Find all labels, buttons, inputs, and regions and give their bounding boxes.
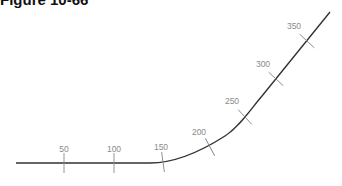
- station-label: 250: [225, 96, 239, 106]
- station-label: 50: [59, 144, 69, 154]
- alignment-diagram: 50100150200250300350: [0, 0, 342, 186]
- station-label: 150: [154, 142, 168, 152]
- station-label: 300: [256, 59, 270, 69]
- alignment-curve: [16, 12, 330, 163]
- station-label: 100: [107, 144, 121, 154]
- station-tick: [269, 72, 284, 86]
- station-ticks: 50100150200250300350: [59, 21, 314, 173]
- station-label: 350: [287, 21, 301, 31]
- station-label: 200: [192, 127, 206, 137]
